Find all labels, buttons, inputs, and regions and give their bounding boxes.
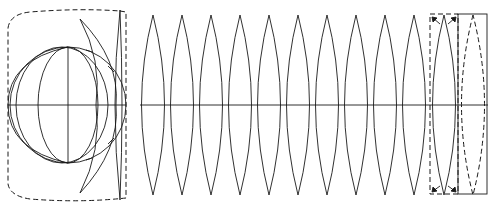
arrow-bottom-left-head: [432, 187, 437, 192]
arrow-bottom-right-head: [451, 187, 456, 192]
globe-figure: [8, 10, 126, 201]
dashed-box: [430, 14, 458, 194]
stretch-arrows: [432, 17, 456, 192]
solid-box: [458, 14, 487, 194]
crescent-flap-top: [86, 50, 92, 52]
gore-row: [140, 15, 488, 195]
crescent-flap-bottom: [86, 158, 92, 160]
globe-gores-diagram: [0, 0, 495, 211]
